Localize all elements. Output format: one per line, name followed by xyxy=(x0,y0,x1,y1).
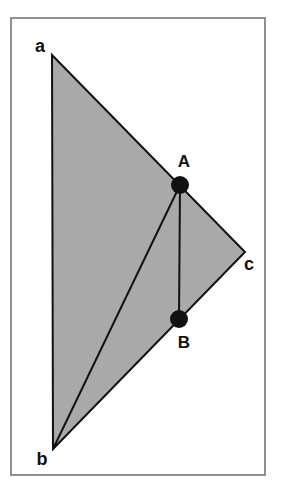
segment-A-B xyxy=(179,185,180,319)
point-A-dot xyxy=(171,176,189,194)
vertex-label-c: c xyxy=(244,254,254,274)
point-label-A: A xyxy=(178,152,190,171)
vertex-label-b: b xyxy=(37,449,48,469)
vertex-label-a: a xyxy=(35,36,46,56)
point-label-B: B xyxy=(178,333,190,352)
triangle-diagram: a b c A B xyxy=(0,0,281,490)
point-B-dot xyxy=(170,310,188,328)
